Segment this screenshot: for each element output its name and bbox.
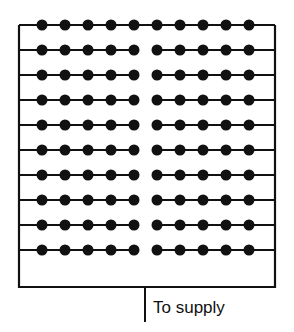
lamp-node-icon bbox=[83, 95, 94, 106]
lamp-node-icon bbox=[129, 170, 140, 181]
lamp-node-icon bbox=[221, 195, 232, 206]
lamp-node-icon bbox=[83, 170, 94, 181]
lamp-node-icon bbox=[83, 45, 94, 56]
lamp-row bbox=[19, 45, 275, 56]
lamp-node-icon bbox=[60, 195, 71, 206]
lamp-node-icon bbox=[83, 220, 94, 231]
lamp-node-icon bbox=[244, 220, 255, 231]
lamp-node-icon bbox=[198, 245, 209, 256]
lamp-node-icon bbox=[221, 120, 232, 131]
lamp-node-icon bbox=[175, 195, 186, 206]
lamp-node-icon bbox=[83, 195, 94, 206]
lamp-row bbox=[19, 145, 275, 156]
lamp-node-icon bbox=[83, 145, 94, 156]
lamp-node-icon bbox=[129, 120, 140, 131]
lamp-node-icon bbox=[129, 195, 140, 206]
lamp-node-icon bbox=[175, 145, 186, 156]
lamp-node-icon bbox=[106, 70, 117, 81]
lamp-node-icon bbox=[60, 70, 71, 81]
lamp-node-icon bbox=[175, 170, 186, 181]
lamp-rows bbox=[19, 20, 275, 256]
lamp-node-icon bbox=[106, 195, 117, 206]
lamp-node-icon bbox=[221, 95, 232, 106]
lamp-node-icon bbox=[60, 145, 71, 156]
lamp-node-icon bbox=[244, 120, 255, 131]
lamp-node-icon bbox=[37, 195, 48, 206]
lamp-node-icon bbox=[37, 245, 48, 256]
lamp-node-icon bbox=[198, 70, 209, 81]
lamp-node-icon bbox=[244, 245, 255, 256]
lamp-node-icon bbox=[152, 220, 163, 231]
lamp-node-icon bbox=[83, 20, 94, 31]
lamp-node-icon bbox=[198, 45, 209, 56]
lamp-node-icon bbox=[83, 70, 94, 81]
lamp-node-icon bbox=[37, 45, 48, 56]
lamp-node-icon bbox=[106, 220, 117, 231]
lamp-node-icon bbox=[152, 245, 163, 256]
lamp-node-icon bbox=[221, 70, 232, 81]
lamp-node-icon bbox=[221, 145, 232, 156]
lamp-node-icon bbox=[152, 195, 163, 206]
lamp-row bbox=[19, 170, 275, 181]
lamp-node-icon bbox=[60, 170, 71, 181]
lamp-node-icon bbox=[129, 220, 140, 231]
lamp-node-icon bbox=[221, 245, 232, 256]
lamp-node-icon bbox=[129, 45, 140, 56]
lamp-node-icon bbox=[244, 45, 255, 56]
lamp-node-icon bbox=[37, 220, 48, 231]
lamp-node-icon bbox=[152, 70, 163, 81]
lamp-node-icon bbox=[175, 70, 186, 81]
lamp-node-icon bbox=[198, 220, 209, 231]
lamp-node-icon bbox=[60, 20, 71, 31]
lamp-node-icon bbox=[244, 70, 255, 81]
lamp-row bbox=[19, 70, 275, 81]
lamp-row bbox=[19, 120, 275, 131]
lamp-node-icon bbox=[106, 120, 117, 131]
lamp-node-icon bbox=[175, 245, 186, 256]
lamp-node-icon bbox=[60, 45, 71, 56]
lamp-node-icon bbox=[37, 145, 48, 156]
lamp-node-icon bbox=[106, 95, 117, 106]
lamp-node-icon bbox=[129, 95, 140, 106]
lamp-node-icon bbox=[175, 45, 186, 56]
lamp-node-icon bbox=[83, 245, 94, 256]
lamp-node-icon bbox=[129, 145, 140, 156]
lamp-node-icon bbox=[221, 20, 232, 31]
lamp-node-icon bbox=[198, 95, 209, 106]
lamp-node-icon bbox=[244, 95, 255, 106]
lamp-row bbox=[19, 95, 275, 106]
wiring-diagram: To supply bbox=[0, 0, 294, 332]
lamp-node-icon bbox=[152, 95, 163, 106]
supply-label: To supply bbox=[153, 298, 225, 317]
lamp-row bbox=[19, 220, 275, 231]
lamp-node-icon bbox=[221, 220, 232, 231]
lamp-node-icon bbox=[152, 145, 163, 156]
lamp-node-icon bbox=[244, 170, 255, 181]
lamp-node-icon bbox=[221, 170, 232, 181]
lamp-node-icon bbox=[60, 120, 71, 131]
lamp-node-icon bbox=[198, 170, 209, 181]
lamp-node-icon bbox=[175, 220, 186, 231]
lamp-node-icon bbox=[221, 45, 232, 56]
lamp-node-icon bbox=[152, 120, 163, 131]
lamp-node-icon bbox=[106, 45, 117, 56]
lamp-node-icon bbox=[83, 120, 94, 131]
lamp-node-icon bbox=[37, 170, 48, 181]
lamp-row bbox=[19, 20, 275, 31]
lamp-node-icon bbox=[152, 170, 163, 181]
lamp-node-icon bbox=[37, 120, 48, 131]
frame bbox=[19, 25, 275, 287]
lamp-row bbox=[19, 195, 275, 206]
lamp-node-icon bbox=[106, 20, 117, 31]
lamp-node-icon bbox=[37, 20, 48, 31]
lamp-node-icon bbox=[106, 245, 117, 256]
lamp-node-icon bbox=[129, 70, 140, 81]
lamp-row bbox=[19, 245, 275, 256]
lamp-node-icon bbox=[152, 45, 163, 56]
lamp-node-icon bbox=[106, 145, 117, 156]
lamp-node-icon bbox=[198, 20, 209, 31]
lamp-node-icon bbox=[60, 95, 71, 106]
lamp-node-icon bbox=[175, 20, 186, 31]
lamp-node-icon bbox=[198, 120, 209, 131]
frame-outline bbox=[19, 25, 275, 287]
